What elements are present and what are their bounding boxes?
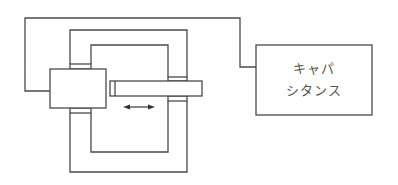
capacitance-label: キャパ シタンス [256,45,372,115]
capacitance-label-line1: キャパ [293,58,335,80]
left-pole-bottom [70,108,91,113]
double-arrow-icon [123,105,155,110]
right-pole-bottom [168,96,187,101]
left-pole-top [70,64,91,69]
capacitance-label-line2: シタンス [286,80,342,102]
main-block [50,69,106,108]
plunger-rod [110,81,202,96]
